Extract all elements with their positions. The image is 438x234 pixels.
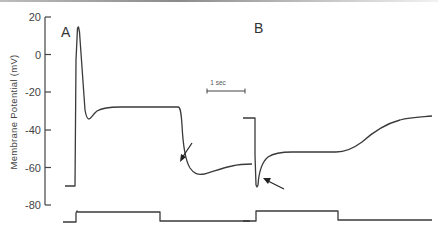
y-tick-minus-40: -40	[25, 124, 41, 136]
panel-label-a: A	[61, 24, 71, 40]
time-scale-bar: 1 sec	[207, 79, 245, 94]
scale-bar-label: 1 sec	[210, 79, 226, 86]
panel-a-stimulus-trace	[63, 211, 250, 222]
y-tick-20: 20	[29, 11, 41, 23]
chart: 20 0 -20 -40 -60 -80 Membrane Potential …	[0, 0, 438, 234]
y-tick-minus-20: -20	[25, 86, 41, 98]
y-tick-labels: 20 0 -20 -40 -60 -80	[25, 11, 41, 211]
y-axis	[45, 17, 51, 205]
panel-b	[243, 116, 432, 221]
panel-b-membrane-trace	[243, 116, 432, 187]
panel-a	[63, 27, 252, 222]
y-tick-0: 0	[35, 49, 41, 61]
panel-b-stimulus-trace	[243, 211, 432, 221]
y-axis-title: Membrane Potential (mV)	[8, 54, 19, 169]
y-tick-minus-80: -80	[25, 199, 41, 211]
y-tick-minus-60: -60	[25, 162, 41, 174]
panel-label-b: B	[254, 20, 263, 36]
panel-a-membrane-trace	[65, 27, 252, 186]
panel-b-arrow	[263, 178, 284, 189]
